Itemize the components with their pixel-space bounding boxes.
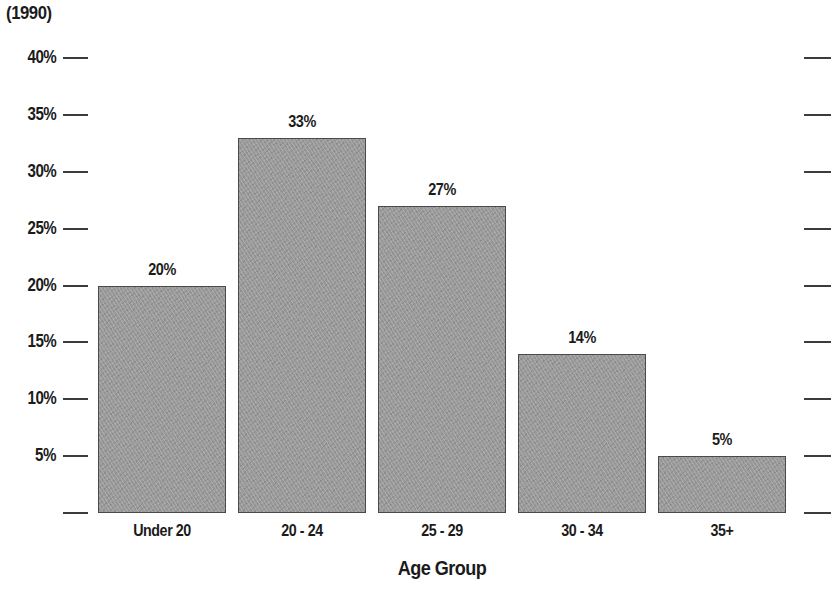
bar <box>658 456 786 513</box>
y-axis-tick-mark <box>63 455 88 457</box>
bar-value-label: 33% <box>288 112 316 132</box>
x-axis-category-label: 20 - 24 <box>281 521 323 541</box>
bar-value-label: 27% <box>428 180 456 200</box>
bar <box>378 206 506 513</box>
y-axis-tick-mark <box>63 341 88 343</box>
y-axis-tick-label: 15% <box>27 331 56 352</box>
y-axis-tick-label: 35% <box>27 104 56 125</box>
y-axis-tick-label: 10% <box>27 388 56 409</box>
x-axis-title: Age Group <box>398 556 487 580</box>
bar-chart: (1990) 40%35%30%25%20%15%10%5% 20%Under … <box>0 0 837 595</box>
right-axis-tick-mark <box>804 455 831 457</box>
y-axis-tick-label: 25% <box>27 218 56 239</box>
right-axis-tick-mark <box>804 228 831 230</box>
bar-value-label: 20% <box>148 260 176 280</box>
right-axis-tick-mark <box>804 512 831 514</box>
right-axis-tick-mark <box>804 398 831 400</box>
bar <box>518 354 646 513</box>
right-axis-tick-mark <box>804 171 831 173</box>
y-axis-tick-mark <box>63 398 88 400</box>
bar <box>238 138 366 513</box>
x-axis-category-label: 25 - 29 <box>421 521 463 541</box>
bar-value-label: 14% <box>568 328 596 348</box>
x-axis-category-label: 30 - 34 <box>561 521 603 541</box>
y-axis-tick-label: 40% <box>27 47 56 68</box>
y-axis-tick-mark <box>63 228 88 230</box>
right-axis-tick-mark <box>804 57 831 59</box>
y-axis-tick-mark <box>63 114 88 116</box>
y-axis-tick-label: 30% <box>27 161 56 182</box>
y-axis-tick-mark <box>63 171 88 173</box>
x-axis-category-label: Under 20 <box>133 521 191 541</box>
bar-value-label: 5% <box>712 430 732 450</box>
y-axis-tick-mark <box>63 512 88 514</box>
x-axis-category-label: 35+ <box>711 521 734 541</box>
right-axis-tick-mark <box>804 285 831 287</box>
page-footer-fragment <box>0 586 837 595</box>
y-axis-tick-mark <box>63 57 88 59</box>
y-axis-tick-label: 20% <box>27 275 56 296</box>
right-axis-tick-mark <box>804 341 831 343</box>
chart-title: (1990) <box>6 2 52 24</box>
y-axis-tick-label: 5% <box>35 445 56 466</box>
bar <box>98 286 226 514</box>
y-axis-tick-mark <box>63 285 88 287</box>
right-axis-tick-mark <box>804 114 831 116</box>
